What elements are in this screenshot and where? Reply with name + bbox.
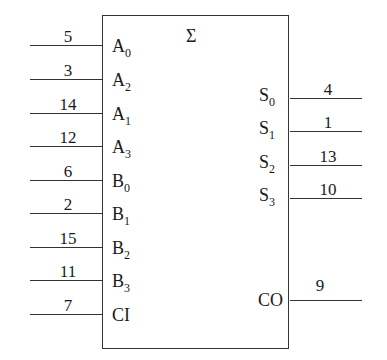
pin-number: 13 <box>308 148 348 165</box>
pin-label: B3 <box>112 272 130 290</box>
pin-number: 5 <box>48 28 88 45</box>
pin-number: 14 <box>48 96 88 113</box>
pin-number: 10 <box>308 181 348 198</box>
pin-label: B1 <box>112 205 130 223</box>
pin-number: 4 <box>308 81 348 98</box>
pin-number: 1 <box>308 114 348 131</box>
pin-label: CI <box>112 306 130 324</box>
pin-number: 7 <box>48 297 88 314</box>
pin-number: 2 <box>48 196 88 213</box>
pin-number: 12 <box>48 129 88 146</box>
pin-label: B0 <box>112 172 130 190</box>
pin-label: CO <box>258 291 283 309</box>
pin-label: A2 <box>112 71 131 89</box>
pin-number: 6 <box>48 163 88 180</box>
wire <box>290 300 362 301</box>
pin-label: S0 <box>259 86 275 104</box>
sum-symbol: Σ <box>186 27 196 45</box>
pin-label: S1 <box>259 119 275 137</box>
pin-label: B2 <box>112 239 130 257</box>
pin-number: 3 <box>48 62 88 79</box>
pin-number: 15 <box>48 230 88 247</box>
pin-label: S3 <box>259 186 275 204</box>
pin-number: 11 <box>48 263 88 280</box>
pin-number: 9 <box>300 277 340 294</box>
pin-label: S2 <box>259 153 275 171</box>
pin-label: A3 <box>112 138 131 156</box>
pin-label: A1 <box>112 105 131 123</box>
pin-label: A0 <box>112 37 131 55</box>
